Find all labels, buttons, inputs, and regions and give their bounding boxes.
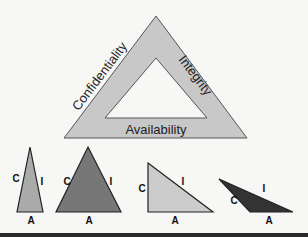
label-availability: Availability xyxy=(125,122,187,137)
label-c: C xyxy=(138,183,145,194)
cia-diagram: Confidentiality Integrity Availability C… xyxy=(0,0,308,237)
label-i: I xyxy=(110,176,113,187)
label-a: A xyxy=(85,215,92,226)
example-triangle-2: C I A xyxy=(56,147,121,226)
bottom-rule xyxy=(0,233,308,237)
label-a: A xyxy=(27,215,34,226)
label-i: I xyxy=(182,176,185,187)
label-c: C xyxy=(63,176,70,187)
label-i: I xyxy=(263,183,266,194)
label-i: I xyxy=(41,176,44,187)
example-triangle-4: C I A xyxy=(219,179,293,226)
cia-triad: Confidentiality Integrity Availability xyxy=(64,16,247,138)
example-triangle-3: C I A xyxy=(138,163,213,226)
label-c: C xyxy=(12,173,19,184)
label-a: A xyxy=(265,215,272,226)
label-c: C xyxy=(230,195,237,206)
example-triangle-1: C I A xyxy=(12,147,43,226)
label-a: A xyxy=(171,215,178,226)
